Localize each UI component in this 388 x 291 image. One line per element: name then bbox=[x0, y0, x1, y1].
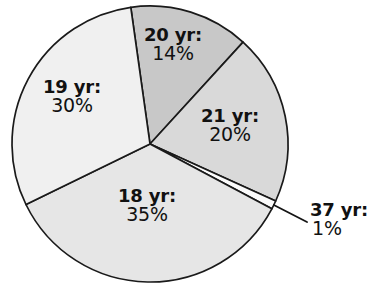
slice-label-19yr-value: 30% bbox=[29, 96, 115, 115]
slice-label-20yr-value: 14% bbox=[130, 44, 216, 63]
slice-label-18yr: 18 yr: 35% bbox=[104, 187, 190, 225]
slice-label-21yr: 21 yr: 20% bbox=[187, 107, 273, 145]
slice-label-21yr-value: 20% bbox=[187, 125, 273, 144]
pie-chart: 20 yr: 14% 21 yr: 20% 37 yr: 1% 18 yr: 3… bbox=[0, 0, 388, 291]
slice-label-18yr-value: 35% bbox=[104, 205, 190, 224]
slice-label-19yr: 19 yr: 30% bbox=[29, 78, 115, 116]
slice-label-37yr-value: 1% bbox=[310, 219, 388, 238]
callout-leader-line-37yr bbox=[274, 205, 307, 222]
slice-label-37yr: 37 yr: 1% bbox=[310, 201, 388, 239]
slice-label-20yr: 20 yr: 14% bbox=[130, 26, 216, 64]
